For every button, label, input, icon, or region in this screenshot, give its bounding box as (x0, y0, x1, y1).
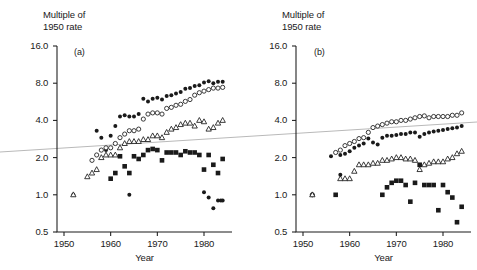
data-point (155, 96, 159, 100)
data-point (193, 93, 197, 97)
data-point (108, 152, 113, 157)
data-point (169, 105, 173, 109)
data-point (141, 97, 145, 101)
y-tick-label: 16.0 (257, 40, 287, 51)
data-point (127, 171, 132, 176)
data-point (183, 120, 188, 125)
y-tick-label: 2.0 (257, 152, 287, 163)
data-point (197, 118, 202, 123)
data-point (394, 178, 399, 183)
data-point (450, 126, 454, 130)
data-point (183, 87, 187, 91)
data-point (103, 152, 108, 157)
data-point (127, 129, 131, 133)
data-point (417, 162, 422, 167)
data-point (403, 183, 408, 188)
data-point (446, 114, 450, 118)
data-point (394, 133, 398, 137)
data-point (408, 130, 412, 134)
data-point (390, 120, 394, 124)
data-point (95, 153, 99, 157)
panel-a-letter: (a) (74, 47, 85, 57)
data-point (390, 134, 394, 138)
data-point (202, 81, 206, 85)
data-point (221, 80, 225, 84)
data-point (188, 86, 192, 90)
data-point (132, 154, 137, 159)
data-point (432, 114, 436, 118)
data-point (99, 148, 103, 152)
data-point (169, 126, 174, 131)
data-point (211, 81, 215, 85)
data-point (141, 137, 146, 142)
series-filled-circle-low (127, 190, 224, 210)
data-point (206, 126, 211, 131)
data-point (348, 149, 352, 153)
data-point (206, 153, 211, 158)
data-point (211, 162, 216, 167)
data-point (155, 148, 160, 153)
data-point (412, 157, 417, 162)
data-point (94, 167, 99, 172)
data-point (366, 130, 370, 134)
data-point (211, 206, 215, 210)
data-point (413, 181, 418, 186)
x-tick-label: 1960 (94, 238, 128, 249)
data-point (455, 220, 460, 225)
data-point (207, 79, 211, 83)
x-tick-label: 1980 (426, 238, 460, 249)
data-point (329, 154, 333, 158)
data-point (375, 160, 380, 165)
y-tick-label: 1.0 (257, 189, 287, 200)
data-point (178, 122, 183, 127)
data-point (422, 132, 426, 136)
data-point (160, 158, 165, 163)
y-tick-label: 0.5 (18, 226, 48, 237)
data-point (347, 176, 352, 181)
data-point (188, 97, 192, 101)
data-point (221, 85, 225, 89)
axis-title-line2: 1950 rate (282, 21, 321, 32)
data-point (216, 171, 221, 176)
data-point (90, 158, 94, 162)
data-point (445, 156, 450, 161)
data-point (183, 99, 187, 103)
data-point (164, 129, 169, 134)
x-tick-label: 1950 (286, 238, 320, 249)
data-point (137, 112, 141, 116)
axis-title-line2: 1950 rate (43, 21, 82, 32)
data-point (445, 190, 450, 195)
data-point (427, 183, 432, 188)
data-point (216, 80, 220, 84)
data-point (441, 183, 446, 188)
data-point (455, 126, 459, 130)
data-point (342, 176, 347, 181)
panel-b-axis-title: Multiple of 1950 rate (282, 9, 324, 32)
data-point (459, 204, 464, 209)
data-point (118, 154, 123, 159)
x-axis-label: Year (115, 252, 175, 263)
data-point (169, 93, 173, 97)
data-point (436, 114, 440, 118)
data-point (141, 153, 146, 158)
data-point (343, 152, 347, 156)
data-point (123, 113, 127, 117)
data-point (450, 113, 454, 117)
data-point (127, 115, 131, 119)
data-point (366, 162, 371, 167)
data-point (427, 116, 431, 120)
data-point (384, 157, 389, 162)
data-point (136, 157, 141, 162)
data-point (441, 128, 445, 132)
data-point (123, 132, 127, 136)
data-point (431, 159, 436, 164)
panel-b: Multiple of 1950 rate (b) 16.08.04.02.01… (239, 0, 477, 270)
series-filled-circle-low (338, 173, 342, 177)
data-point (108, 176, 113, 181)
data-point (376, 124, 380, 128)
data-point (174, 92, 178, 96)
data-point (188, 150, 193, 155)
data-point (352, 139, 356, 143)
data-point (151, 111, 155, 115)
data-point (338, 153, 342, 157)
